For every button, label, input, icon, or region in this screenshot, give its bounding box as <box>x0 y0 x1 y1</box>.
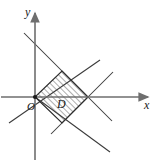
y-axis-label: y <box>25 6 30 18</box>
coordinate-diagram <box>0 0 159 168</box>
region-label-D: D <box>57 98 66 110</box>
x-axis-label: x <box>144 99 149 111</box>
origin-label: O <box>27 101 35 112</box>
origin-point <box>33 95 37 99</box>
